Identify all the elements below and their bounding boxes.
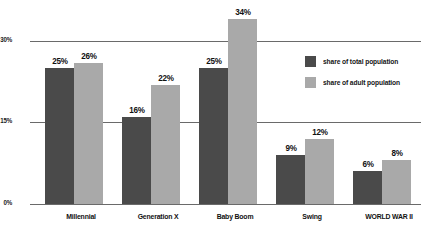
category-label-generation-x: Generation X xyxy=(125,212,191,221)
legend-label-total: share of total population xyxy=(323,58,398,65)
bar-value-millennial-adult: 26% xyxy=(81,51,96,61)
bar-millennial-total[interactable]: 25% xyxy=(45,68,74,204)
y-tick-label-15: 15% xyxy=(0,117,12,124)
bar-groups: 25% 26% Millennial 16% 22% xyxy=(36,0,421,243)
bar-pair: 25% 34% xyxy=(199,39,271,204)
bar-value-swing-total: 9% xyxy=(285,143,296,153)
bar-value-swing-adult: 12% xyxy=(312,127,327,137)
bar-baby-boom-total[interactable]: 25% xyxy=(199,68,228,204)
bar-generation-x-total[interactable]: 16% xyxy=(122,117,151,204)
bar-baby-boom-adult[interactable]: 34% xyxy=(228,19,257,204)
bar-value-baby-boom-adult: 34% xyxy=(235,7,250,17)
bar-chart: 25% 26% Millennial 16% 22% xyxy=(0,0,433,243)
legend-item-total-population[interactable]: share of total population xyxy=(305,54,430,68)
chart-legend: share of total population share of adult… xyxy=(305,54,430,96)
bar-swing-adult[interactable]: 12% xyxy=(305,139,334,204)
legend-label-adult: share of adult population xyxy=(323,79,400,86)
bar-group-millennial: 25% 26% Millennial xyxy=(45,39,117,204)
bar-pair: 25% 26% xyxy=(45,39,117,204)
bar-millennial-adult[interactable]: 26% xyxy=(74,63,103,204)
legend-swatch-icon-adult xyxy=(305,77,316,88)
category-label-world-war-ii: WORLD WAR II xyxy=(356,212,422,221)
bar-swing-total[interactable]: 9% xyxy=(276,155,305,204)
bar-value-baby-boom-total: 25% xyxy=(206,56,221,66)
bar-world-war-ii-adult[interactable]: 8% xyxy=(382,160,411,204)
bar-value-generation-x-adult: 22% xyxy=(158,73,173,83)
y-tick-label-0: 0% xyxy=(0,199,12,206)
legend-item-adult-population[interactable]: share of adult population xyxy=(305,75,430,89)
bar-pair: 16% 22% xyxy=(122,39,194,204)
bar-value-millennial-total: 25% xyxy=(52,56,67,66)
bar-value-world-war-ii-total: 6% xyxy=(362,159,373,169)
bar-group-generation-x: 16% 22% Generation X xyxy=(122,39,194,204)
category-label-swing: Swing xyxy=(279,212,345,221)
bar-world-war-ii-total[interactable]: 6% xyxy=(353,171,382,204)
bar-value-world-war-ii-adult: 8% xyxy=(391,148,402,158)
plot-area: 25% 26% Millennial 16% 22% xyxy=(36,0,421,243)
bar-generation-x-adult[interactable]: 22% xyxy=(151,85,180,204)
y-tick-label-30: 30% xyxy=(0,36,12,43)
bar-group-baby-boom: 25% 34% Baby Boom xyxy=(199,39,271,204)
legend-swatch-icon-total xyxy=(305,56,316,67)
category-label-baby-boom: Baby Boom xyxy=(202,212,268,221)
category-label-millennial: Millennial xyxy=(48,212,114,221)
bar-value-generation-x-total: 16% xyxy=(129,105,144,115)
